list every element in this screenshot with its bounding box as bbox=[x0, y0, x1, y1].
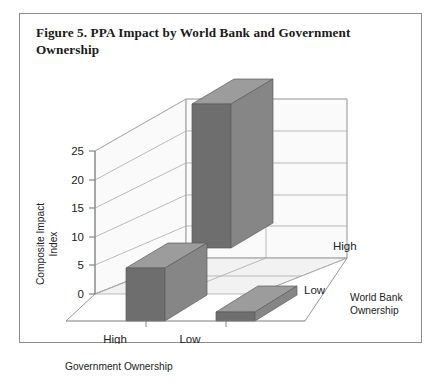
x-cat-high: High bbox=[103, 333, 127, 344]
y-axis-title-line1: Composite Impact bbox=[35, 203, 46, 285]
y-tick-25: 25 bbox=[71, 145, 84, 157]
z-cat-high: High bbox=[333, 240, 357, 252]
y-axis bbox=[89, 151, 95, 294]
y-tick-20: 20 bbox=[71, 174, 84, 186]
bar-front-face bbox=[216, 312, 255, 321]
x-axis-title: Government Ownership bbox=[65, 361, 173, 372]
y-tick-10: 10 bbox=[71, 231, 84, 243]
x-cat-low: Low bbox=[179, 333, 201, 344]
y-axis-title-line2: Index bbox=[48, 232, 59, 257]
bar-front-face bbox=[192, 104, 231, 248]
bar-side-face bbox=[231, 79, 273, 248]
y-tick-labels: 25 20 15 10 5 0 bbox=[71, 145, 84, 300]
bar-front-face bbox=[126, 268, 165, 321]
y-tick-5: 5 bbox=[78, 259, 84, 271]
x-category-labels: High Low bbox=[103, 333, 201, 344]
figure-frame: Figure 5. PPA Impact by World Bank and G… bbox=[19, 13, 422, 343]
z-cat-low: Low bbox=[304, 284, 326, 296]
figure-title: Figure 5. PPA Impact by World Bank and G… bbox=[36, 25, 366, 58]
y-tick-15: 15 bbox=[71, 202, 84, 214]
z-axis-title: World Bank Ownership bbox=[350, 291, 430, 317]
y-axis-title: Composite Impact Index bbox=[35, 203, 59, 285]
y-tick-0: 0 bbox=[78, 288, 84, 300]
bar-gov-high-wb-high bbox=[192, 79, 273, 248]
